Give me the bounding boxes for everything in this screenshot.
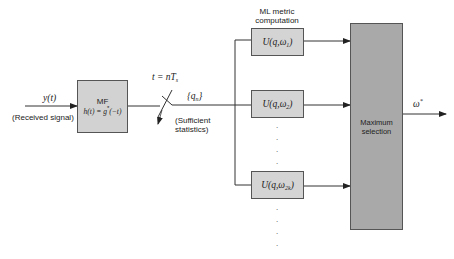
metric-header-line1: ML metric xyxy=(247,7,307,16)
maximum-selection-block: Maximum selection xyxy=(350,23,403,230)
metric-block-n: U(q,ω2k) xyxy=(251,171,304,199)
matched-filter-block: MF h(t) = g*(−t) xyxy=(77,80,128,133)
selector-label-line1: Maximum xyxy=(360,118,393,127)
statistics-symbol: {qn} xyxy=(187,92,202,101)
ellipsis-middle: · · · · xyxy=(275,123,279,168)
input-signal-label: y(t) xyxy=(43,94,56,103)
output-symbol: ω* xyxy=(413,100,423,109)
metric-block-n-label: U(q,ω2k) xyxy=(261,180,294,190)
statistics-caption-line2: statistics) xyxy=(175,125,208,134)
metric-block-1-label: U(q,ω1) xyxy=(262,37,292,47)
metric-block-2: U(q,ω2) xyxy=(251,90,304,118)
metric-header-line2: computation xyxy=(247,16,307,25)
selector-label-line2: selection xyxy=(360,127,393,136)
metric-block-1: U(q,ω1) xyxy=(251,28,304,56)
ellipsis-bottom: · · · · xyxy=(275,205,279,250)
mf-title: MF xyxy=(78,97,127,106)
statistics-line xyxy=(162,96,172,105)
mf-equation: h(t) = g*(−t) xyxy=(78,107,127,116)
statistics-caption-line1: (Sufficient xyxy=(175,116,210,125)
sampler-label: t = nTs xyxy=(152,73,178,82)
metric-block-2-label: U(q,ω2) xyxy=(262,99,292,109)
input-signal-caption: (Received signal) xyxy=(12,113,74,122)
